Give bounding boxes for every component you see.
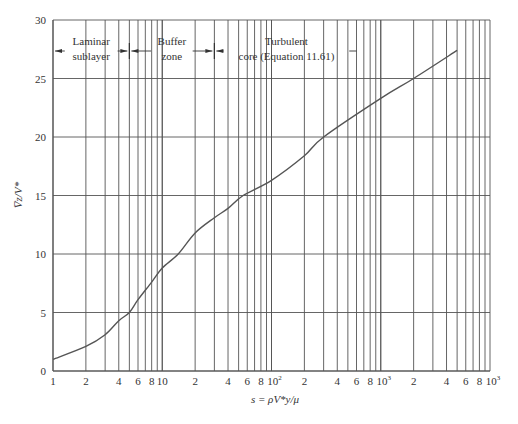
y-tick-label: 15	[35, 190, 47, 202]
x-tick-label: 8	[367, 375, 373, 387]
x-tick-label: 8	[149, 375, 155, 387]
x-tick-label: 8	[477, 375, 483, 387]
x-tick-label: 4	[335, 375, 341, 387]
x-tick-label: 6	[463, 375, 469, 387]
y-tick-label: 30	[35, 14, 47, 26]
annotation-label: Turbulent	[265, 35, 308, 47]
x-tick-label: 10	[157, 375, 169, 387]
x-tick-label: 4	[444, 375, 450, 387]
x-tick-label: 1	[50, 375, 56, 387]
arrowhead-icon	[216, 49, 223, 53]
arrowhead-icon	[131, 49, 138, 53]
x-axis-label: s = ρV*y/μ	[251, 393, 300, 405]
grid-lines	[53, 20, 490, 371]
y-tick-label: 5	[41, 307, 47, 319]
x-tick-label: 2	[411, 375, 417, 387]
arrowhead-icon	[55, 49, 62, 53]
annotation-label: core (Equation 11.61)	[239, 50, 335, 63]
arrowhead-icon	[120, 49, 127, 53]
x-tick-label: 103	[377, 374, 392, 387]
x-tick-label: 6	[245, 375, 251, 387]
velocity-profile-curve	[53, 50, 457, 359]
annotation-label: Laminar	[73, 35, 111, 47]
y-tick-label: 20	[35, 131, 47, 143]
x-tick-label: 2	[192, 375, 198, 387]
x-tick-label: 2	[302, 375, 308, 387]
region-annotations: LaminarsublayerBufferzoneTurbulentcore (…	[55, 35, 357, 63]
x-tick-label: 8	[258, 375, 264, 387]
annotation-label: zone	[161, 50, 182, 62]
x-tick-label: 4	[225, 375, 231, 387]
annotation-label: Buffer	[158, 35, 187, 47]
arrowhead-icon	[205, 49, 212, 53]
y-tick-label: 0	[41, 365, 47, 377]
x-tick-label: 2	[83, 375, 89, 387]
annotation-label: sublayer	[73, 50, 111, 62]
x-tick-label: 4	[116, 375, 122, 387]
y-axis-label: V̅z/V*	[12, 181, 24, 208]
x-tick-label: 102	[267, 374, 282, 387]
velocity-profile-chart: 0510152025301246810246810224681032468103…	[0, 0, 518, 424]
y-tick-label: 25	[35, 73, 47, 85]
x-tick-label: 6	[135, 375, 141, 387]
y-tick-label: 10	[35, 248, 47, 260]
x-tick-label: 103	[486, 374, 501, 387]
x-tick-label: 6	[354, 375, 360, 387]
chart-canvas: 0510152025301246810246810224681032468103…	[0, 0, 518, 424]
